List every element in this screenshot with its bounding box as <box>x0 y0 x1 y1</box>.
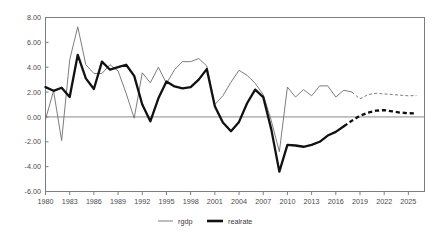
x-tick-label: 2010 <box>279 197 295 206</box>
x-tick-label: 2013 <box>304 197 320 206</box>
x-tick-label: 2025 <box>400 197 416 206</box>
x-tick-label: 1983 <box>62 197 78 206</box>
x-tick-label: 1980 <box>38 197 54 206</box>
x-tick-label: 1995 <box>158 197 174 206</box>
legend-label-realrate: realrate <box>228 217 252 226</box>
y-tick-label: 8.00 <box>27 13 41 22</box>
x-tick-label: 2016 <box>328 197 344 206</box>
chart-container: 8.006.004.002.000.00-2.00-4.00-6.00 1980… <box>0 0 436 240</box>
x-tick-label: 2004 <box>231 197 247 206</box>
legend-label-rgdp: rgdp <box>178 217 192 226</box>
y-tick-label: -2.00 <box>25 137 41 146</box>
x-tick-label: 1998 <box>183 197 199 206</box>
x-tick-label: 2007 <box>255 197 271 206</box>
y-tick-label: -6.00 <box>25 187 41 196</box>
x-tick-label: 1992 <box>134 197 150 206</box>
y-tick-label: 4.00 <box>27 63 41 72</box>
line-chart: 8.006.004.002.000.00-2.00-4.00-6.00 1980… <box>0 0 436 240</box>
y-tick-label: -4.00 <box>25 162 41 171</box>
y-tick-label: 6.00 <box>27 38 41 47</box>
x-tick-label: 1986 <box>86 197 102 206</box>
x-tick-label: 1989 <box>110 197 126 206</box>
y-tick-label: 0.00 <box>27 113 41 122</box>
y-tick-label: 2.00 <box>27 88 41 97</box>
x-tick-label: 2022 <box>376 197 392 206</box>
x-tick-label: 2001 <box>207 197 223 206</box>
x-tick-label: 2019 <box>352 197 368 206</box>
